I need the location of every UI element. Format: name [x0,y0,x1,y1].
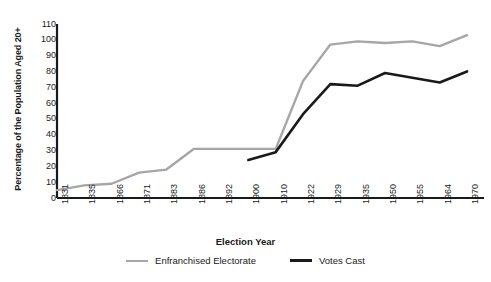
y-axis-tick: 20 [46,162,56,171]
series-line [57,35,467,190]
x-axis-tick: 1886 [198,184,207,204]
legend-swatch-icon [290,259,312,262]
series-line [248,71,467,160]
y-axis-tick: 0 [51,194,56,203]
x-axis-tick: 1964 [444,184,453,204]
y-axis-tick: 70 [46,83,56,92]
y-axis-tick: 40 [46,130,56,139]
x-axis-tick: 1955 [416,184,425,204]
chart-container: Percentage of the Population Aged 20+ 01… [0,0,491,282]
x-axis-tick: 1883 [170,184,179,204]
x-axis-tick: 1831 [61,184,70,204]
x-axis-title: Election Year [0,236,491,247]
x-axis-tick: 1866 [116,184,125,204]
x-axis-tick: 1835 [88,184,97,204]
y-axis-tick: 60 [46,99,56,108]
legend-item[interactable]: Votes Cast [290,255,365,266]
x-axis-tick: 1950 [389,184,398,204]
y-axis-tick-labels: 0102030405060708090100110 [22,0,56,210]
chart-legend: Enfranchised ElectorateVotes Cast [0,255,491,266]
x-axis-tick: 1935 [362,184,371,204]
y-axis-tick: 90 [46,51,56,60]
y-axis-tick: 80 [46,67,56,76]
x-axis-tick: 1929 [334,184,343,204]
x-axis-tick: 1910 [280,184,289,204]
x-axis-tick: 1922 [307,184,316,204]
y-axis-tick: 50 [46,114,56,123]
x-axis-tick: 1892 [225,184,234,204]
x-axis-tick: 1970 [471,184,480,204]
y-axis-tick: 100 [41,35,56,44]
legend-label: Enfranchised Electorate [155,255,256,266]
x-axis-tick: 1900 [252,184,261,204]
data-series-layer [57,35,467,190]
axis-lines [57,24,484,198]
y-axis-tick: 30 [46,146,56,155]
y-axis-tick: 110 [42,20,56,29]
legend-label: Votes Cast [319,255,365,266]
x-axis-tick: 1871 [143,184,152,204]
legend-swatch-icon [126,260,148,262]
legend-item[interactable]: Enfranchised Electorate [126,255,256,266]
y-axis-tick: 10 [46,178,56,187]
